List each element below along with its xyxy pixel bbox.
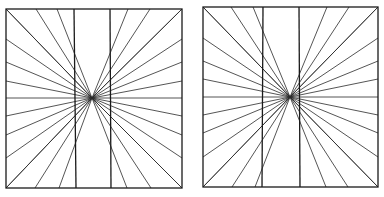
illusion-figure xyxy=(0,0,384,197)
ray-line xyxy=(232,97,290,187)
ray-line xyxy=(203,97,290,187)
ray-line xyxy=(35,98,92,188)
ray-line xyxy=(290,7,378,97)
ray-line xyxy=(6,62,92,98)
ray-line xyxy=(203,7,290,97)
ray-line xyxy=(290,97,326,187)
ray-line xyxy=(290,61,378,97)
ray-line xyxy=(6,98,92,135)
ray-line xyxy=(92,62,182,98)
vertical-line xyxy=(299,7,300,187)
ray-line xyxy=(255,97,290,187)
vertical-line xyxy=(110,9,111,188)
ray-line xyxy=(92,98,182,188)
ray-line xyxy=(36,9,92,98)
ray-line xyxy=(92,9,182,98)
right-panel xyxy=(203,7,378,187)
ray-line xyxy=(203,61,290,97)
ray-line xyxy=(290,7,327,97)
ray-line xyxy=(92,98,182,135)
ray-line xyxy=(290,97,348,187)
ray-line xyxy=(6,9,92,98)
ray-line xyxy=(203,97,290,133)
left-panel xyxy=(6,9,182,188)
ray-line xyxy=(290,97,378,133)
vertical-line xyxy=(262,7,263,187)
ray-line xyxy=(92,9,150,98)
ray-line xyxy=(231,7,290,97)
vertical-line xyxy=(74,9,76,188)
ray-line xyxy=(290,97,378,187)
ray-line xyxy=(6,98,92,188)
ray-line xyxy=(253,7,290,97)
